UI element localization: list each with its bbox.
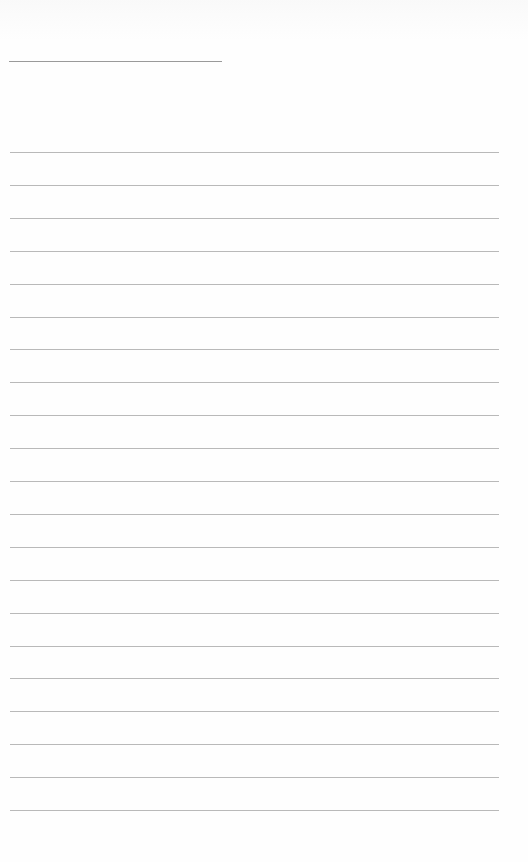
ruled-line — [10, 711, 499, 712]
ruled-line — [10, 514, 499, 515]
ruled-line — [10, 185, 499, 186]
ruled-line — [10, 810, 499, 811]
ruled-line — [10, 448, 499, 449]
ruled-line — [10, 152, 499, 153]
ruled-line — [10, 349, 499, 350]
ruled-line — [10, 382, 499, 383]
ruled-line — [10, 218, 499, 219]
ruled-line — [10, 777, 499, 778]
ruled-line — [10, 613, 499, 614]
title-line — [9, 61, 222, 62]
ruled-line — [10, 580, 499, 581]
ruled-line — [10, 415, 499, 416]
ruled-line — [10, 547, 499, 548]
ruled-line — [10, 284, 499, 285]
ruled-line — [10, 744, 499, 745]
ruled-line — [10, 678, 499, 679]
bleed-through-area — [0, 0, 528, 40]
lined-paper-sheet — [0, 0, 528, 862]
ruled-line — [10, 646, 499, 647]
ruled-line — [10, 251, 499, 252]
ruled-line — [10, 481, 499, 482]
ruled-line — [10, 317, 499, 318]
